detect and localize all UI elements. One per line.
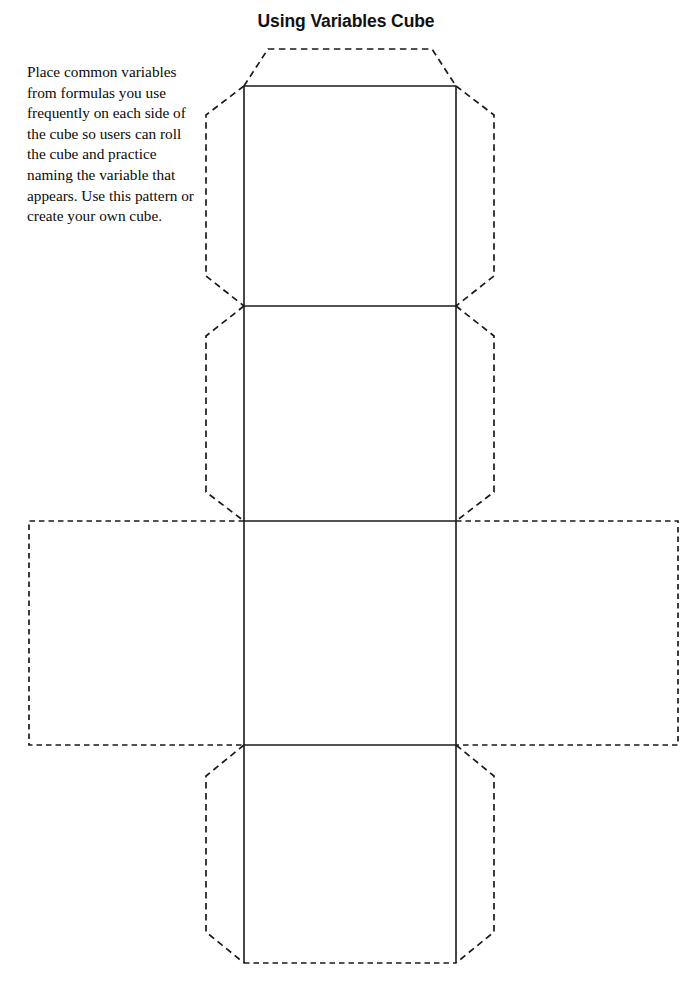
tab-top	[244, 49, 456, 86]
cube-net-diagram	[0, 0, 692, 989]
tab-lower-left	[206, 745, 244, 963]
tab-upper-right	[456, 86, 494, 306]
face-left-flap	[29, 521, 244, 745]
tab-upper-left	[206, 86, 244, 306]
tab-middle-left	[206, 306, 244, 521]
tab-lower-right	[456, 745, 494, 963]
worksheet-page: Using Variables Cube Place common variab…	[0, 0, 692, 989]
tab-middle-right	[456, 306, 494, 521]
face-right-flap	[456, 521, 678, 745]
